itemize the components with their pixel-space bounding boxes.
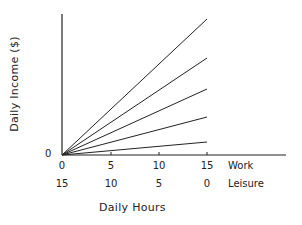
leisure-row-label: Leisure [228, 178, 264, 189]
leisure-tick-0: 0 [204, 178, 210, 189]
wage-line-5 [62, 142, 207, 155]
y-axis-label: Daily Income ($) [8, 36, 21, 132]
wage-lines [62, 19, 207, 155]
y-zero-label: 0 [45, 148, 51, 159]
work-row-label: Work [228, 160, 253, 171]
work-tick-0: 0 [59, 160, 65, 171]
work-tick-10: 10 [153, 160, 166, 171]
work-tick-5: 5 [108, 160, 114, 171]
leisure-tick-15: 15 [56, 178, 69, 189]
leisure-tick-10: 10 [105, 178, 118, 189]
leisure-tick-5: 5 [156, 178, 162, 189]
wage-line-2 [62, 58, 207, 155]
wage-line-4 [62, 117, 207, 155]
wage-line-3 [62, 89, 207, 155]
work-tick-15: 15 [201, 160, 214, 171]
x-axis-label: Daily Hours [99, 201, 166, 214]
wage-line-1 [62, 19, 207, 155]
chart-plot [0, 0, 302, 225]
